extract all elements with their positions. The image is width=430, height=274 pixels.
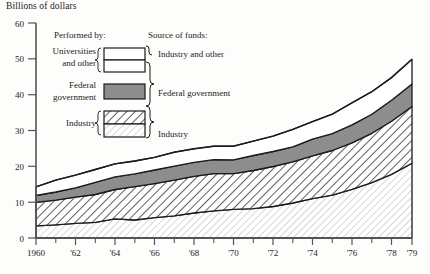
legend-label-universities: Universities (53, 46, 97, 56)
brace-source-industry (146, 106, 154, 138)
legend-label-industry: Industry (66, 118, 96, 128)
legend-source-industry: Industry (158, 129, 188, 139)
legend-swatch-federal-government (104, 84, 145, 99)
legend-label-federal: Federal (69, 80, 96, 90)
x-tick-label: '64 (110, 248, 121, 258)
legend-label-universities-2: and other (62, 58, 96, 68)
y-tick-label: 0 (20, 234, 25, 244)
x-tick-label: '62 (70, 248, 81, 258)
y-tick-label: 60 (15, 19, 25, 29)
chart-svg: 60 50 40 30 20 10 0 (0, 0, 430, 274)
y-tick-label: 50 (15, 54, 25, 64)
x-tick-label: 1960 (27, 248, 46, 258)
x-axis-ticks (36, 238, 412, 245)
x-tick-label: '74 (307, 248, 318, 258)
chart-container: Billions of dollars (0, 0, 430, 274)
x-tick-label: '70 (228, 248, 239, 258)
x-tick-label: '78 (386, 248, 397, 258)
x-tick-label: '76 (347, 248, 358, 258)
legend-swatch-industry-funds (104, 124, 145, 137)
y-axis-ticks (28, 23, 36, 238)
legend-source-of-funds-header: Source of funds: (148, 30, 208, 40)
x-tick-label: '72 (268, 248, 279, 258)
legend-source-federal-government: Federal government (158, 88, 231, 98)
brace-industry-left (95, 111, 101, 135)
brace-source-industry-other (146, 46, 152, 55)
legend: Performed by: Source of funds: Universit… (53, 30, 231, 139)
legend-label-federal-2: government (53, 92, 96, 102)
legend-swatch-industry-performed (104, 111, 145, 124)
y-tick-label: 10 (15, 198, 25, 208)
legend-source-industry-and-other: Industry and other (158, 49, 224, 59)
y-tick-label: 20 (15, 162, 25, 172)
x-tick-label: '79 (407, 248, 418, 258)
legend-performed-by-header: Performed by: (54, 30, 106, 40)
x-tick-label: '68 (189, 248, 200, 258)
x-tick-label: '66 (149, 248, 160, 258)
y-tick-label: 30 (15, 126, 25, 136)
brace-source-federal (146, 62, 154, 106)
legend-swatch-universities-and-other (104, 48, 145, 72)
y-tick-label: 40 (15, 90, 25, 100)
